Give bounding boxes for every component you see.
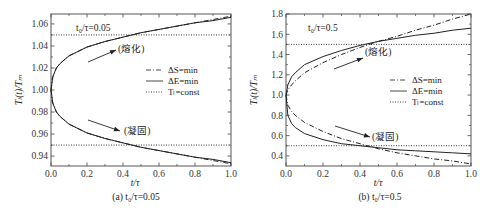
svg-text:1.00: 1.00 — [31, 85, 48, 95]
svg-text:0.8: 0.8 — [189, 169, 201, 179]
svg-text:0.2: 0.2 — [317, 169, 329, 179]
legend-ts-const: Tₗ=const — [412, 97, 444, 107]
panel-a-chart: 0.00.20.40.60.81.00.940.960.981.001.021.… — [14, 14, 237, 203]
svg-text:1.04: 1.04 — [31, 41, 48, 51]
panel-b-y-axis-label: Tₗ(t)/Tₘ — [249, 75, 260, 105]
panel-a-plot-area: 0.00.20.40.60.81.00.940.960.981.001.021.… — [31, 14, 237, 179]
arrow-icon — [114, 127, 120, 132]
panel-a-solidification-label: (凝固) — [124, 126, 150, 137]
panel-b-solidification-label: (凝固) — [372, 132, 398, 143]
svg-text:1.4: 1.4 — [271, 50, 283, 60]
panel-b-annotation: t₀/τ=0.5 — [308, 23, 338, 33]
panel-a-y-axis-label: Tₗ(t)/Tₘ — [14, 75, 25, 105]
svg-text:0.4: 0.4 — [354, 169, 366, 179]
panel-b-legend: ΔS=min ΔE=min Tₗ=const — [390, 75, 444, 107]
svg-text:0.4: 0.4 — [117, 169, 129, 179]
panel-a-x-axis-label: t/τ — [131, 178, 140, 188]
figure: 0.00.20.40.60.81.00.940.960.981.001.021.… — [0, 0, 489, 214]
panel-a-caption: (a) t₀/τ=0.05 — [112, 192, 160, 203]
svg-text:0.6: 0.6 — [391, 169, 403, 179]
arrow-icon — [357, 58, 363, 62]
panel-b-plot-area: 0.00.20.40.60.81.00.40.60.81.01.21.41.61… — [271, 9, 477, 179]
legend-delta-e-min: ΔE=min — [168, 76, 199, 86]
svg-text:0.0: 0.0 — [45, 169, 57, 179]
panel-b-chart: 0.00.20.40.60.81.00.40.60.81.01.21.41.61… — [249, 9, 477, 203]
svg-text:1.0: 1.0 — [225, 169, 237, 179]
legend-delta-s-min: ΔS=min — [168, 65, 198, 75]
svg-text:0.6: 0.6 — [271, 131, 283, 141]
svg-text:0.4: 0.4 — [271, 151, 283, 161]
svg-text:1.8: 1.8 — [271, 9, 283, 19]
svg-text:1.0: 1.0 — [271, 90, 283, 100]
svg-text:1.06: 1.06 — [31, 19, 48, 29]
svg-text:0.8: 0.8 — [428, 169, 440, 179]
panel-a-annotation: t₀/τ=0.05 — [76, 23, 111, 33]
svg-text:1.02: 1.02 — [31, 63, 48, 73]
legend-delta-e-min: ΔE=min — [412, 86, 443, 96]
svg-text:1.0: 1.0 — [465, 169, 477, 179]
svg-text:0.6: 0.6 — [153, 169, 165, 179]
svg-text:0.2: 0.2 — [81, 169, 93, 179]
panel-a-legend: ΔS=min ΔE=min Tₗ=const — [146, 65, 200, 97]
svg-text:0.94: 0.94 — [31, 151, 48, 161]
legend-delta-s-min: ΔS=min — [412, 75, 442, 85]
svg-text:1.6: 1.6 — [271, 30, 283, 40]
panel-b-caption: (b) t₀/τ=0.5 — [358, 192, 401, 203]
arrow-icon — [110, 50, 116, 55]
panel-a-melting-label: (熔化) — [118, 43, 144, 55]
svg-text:0.8: 0.8 — [271, 111, 283, 121]
svg-text:0.98: 0.98 — [31, 107, 48, 117]
svg-text:0.96: 0.96 — [31, 129, 48, 139]
arrow-icon — [364, 133, 370, 138]
panel-b-x-axis-label: t/τ — [374, 178, 383, 188]
panel-b-melting-label: (熔化) — [365, 46, 391, 58]
svg-text:1.2: 1.2 — [271, 70, 283, 80]
svg-text:0.0: 0.0 — [280, 169, 292, 179]
legend-ts-const: Tₗ=const — [168, 87, 200, 97]
